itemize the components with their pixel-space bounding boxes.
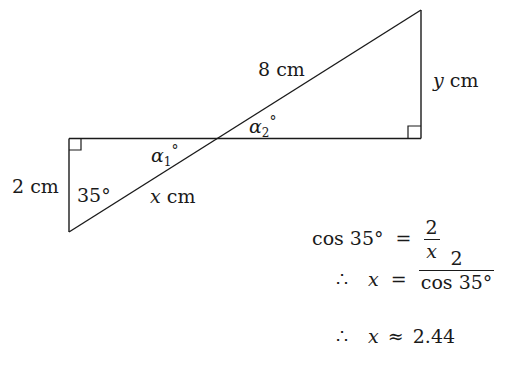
result-value: 2.44 [413,325,455,347]
diagram-lines [0,0,505,365]
therefore-symbol: ∴ [336,268,348,290]
degree: ° [171,142,178,158]
denominator: cos 35° [419,271,495,292]
label-y-cm: y cm [433,71,478,90]
right-angle-mark-right [408,126,421,139]
numerator: 2 [419,249,495,271]
label-8cm: 8 cm [258,60,305,79]
degree: ° [269,113,276,129]
cos-expression: cos 35° [312,227,384,249]
fraction: 2cos 35° [419,249,495,292]
label-alpha1: α1° [151,143,178,168]
alpha-symbol: α [249,115,262,137]
alpha-symbol: α [151,144,164,166]
working-line-3: ∴ x ≈ 2.44 [336,327,455,346]
label-alpha2: α2° [249,114,276,139]
equals-sign: = [396,227,412,249]
unit-cm: cm [161,185,196,207]
label-2cm: 2 cm [12,177,59,196]
therefore-symbol: ∴ [336,325,348,347]
var-y: y [433,69,444,91]
approx-sign: ≈ [388,325,404,347]
label-35-degrees: 35° [77,186,111,205]
equals-sign: = [391,268,407,290]
unit-cm: cm [444,69,479,91]
var-x: x [368,325,379,347]
diagonal-line [69,10,421,232]
label-x-cm: x cm [150,187,195,206]
numerator: 2 [424,218,440,240]
right-angle-mark-left [69,139,81,151]
working-line-2: ∴ x = 2cos 35° [336,270,494,292]
var-x: x [150,185,161,207]
trig-diagram: 8 cm y cm α2° α1° 2 cm 35° x cm cos 35° … [0,0,505,365]
var-x: x [368,268,379,290]
